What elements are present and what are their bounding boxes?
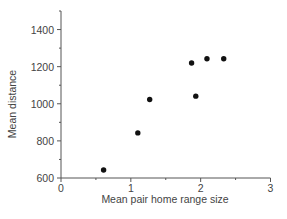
axes: 6008001000120014000123	[31, 11, 274, 194]
x-tick-label: 0	[58, 182, 64, 194]
data-point	[135, 130, 140, 135]
data-point	[147, 97, 152, 102]
data-point	[189, 60, 194, 65]
y-tick-label: 800	[36, 135, 54, 147]
x-tick-label: 3	[268, 182, 274, 194]
data-points	[101, 56, 227, 173]
x-axis-title: Mean pair home range size	[101, 193, 228, 205]
scatter-chart: 6008001000120014000123 Mean pair home ra…	[0, 0, 287, 219]
data-point	[101, 167, 106, 172]
y-tick-label: 1400	[31, 24, 55, 36]
y-tick-label: 1200	[31, 61, 55, 73]
y-axis-title: Mean distance	[6, 70, 18, 138]
y-tick-label: 600	[36, 172, 54, 184]
y-tick-label: 1000	[31, 98, 55, 110]
data-point	[193, 93, 198, 98]
data-point	[204, 56, 209, 61]
data-point	[221, 56, 226, 61]
